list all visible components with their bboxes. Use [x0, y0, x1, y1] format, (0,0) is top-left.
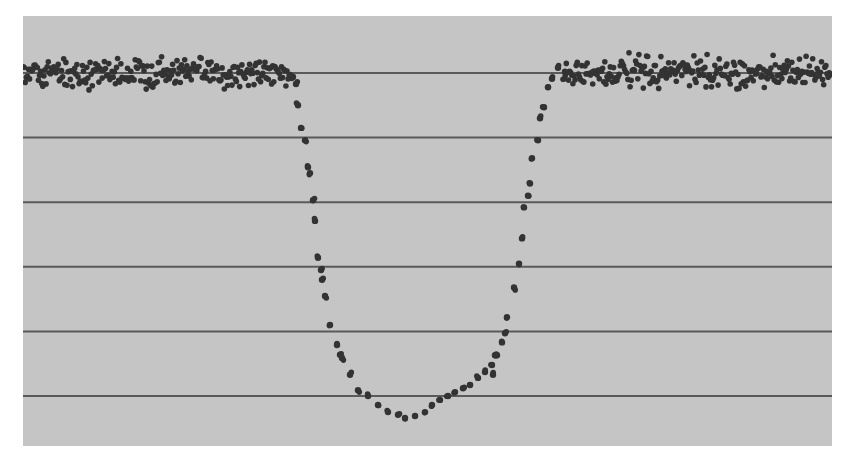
data-point	[169, 72, 175, 78]
data-point	[504, 315, 510, 321]
data-point	[702, 65, 708, 71]
data-point	[581, 79, 587, 85]
data-point	[171, 68, 177, 74]
data-point	[147, 77, 153, 83]
data-point	[779, 76, 785, 82]
data-point	[229, 82, 235, 88]
data-point	[141, 68, 147, 74]
data-point	[691, 53, 697, 59]
data-point	[70, 84, 76, 90]
data-point	[436, 397, 442, 403]
data-point	[115, 56, 121, 62]
data-point	[154, 79, 160, 85]
data-point	[239, 62, 245, 68]
data-point	[84, 65, 90, 71]
data-point	[357, 389, 363, 395]
data-point	[556, 63, 562, 69]
data-point	[376, 403, 382, 409]
data-point	[397, 411, 403, 417]
data-point	[303, 139, 309, 145]
data-point	[90, 83, 96, 89]
data-point	[715, 82, 721, 88]
data-point	[538, 113, 544, 119]
data-point	[384, 408, 390, 414]
data-point	[674, 78, 680, 84]
data-point	[23, 80, 28, 86]
data-point	[527, 180, 533, 186]
data-point	[247, 62, 253, 68]
data-point	[305, 163, 311, 169]
data-point	[641, 85, 647, 91]
data-point	[520, 234, 526, 240]
data-point	[422, 410, 428, 416]
data-point	[43, 81, 49, 87]
data-point	[704, 52, 710, 58]
data-point	[792, 79, 798, 85]
data-point	[41, 73, 47, 79]
data-point	[642, 64, 648, 70]
data-point	[564, 61, 570, 67]
data-point	[312, 196, 318, 202]
data-point	[365, 391, 371, 397]
data-point	[529, 156, 535, 162]
gridlines	[23, 73, 832, 396]
data-point	[789, 60, 795, 66]
data-point	[157, 60, 163, 66]
data-point	[283, 83, 289, 89]
data-point	[632, 68, 638, 74]
data-point	[203, 68, 209, 74]
data-point	[742, 63, 748, 69]
data-point	[143, 86, 149, 92]
data-point	[521, 204, 527, 210]
data-point	[106, 61, 112, 67]
data-point	[724, 61, 730, 67]
data-point	[624, 71, 630, 77]
data-point	[299, 126, 305, 132]
data-point	[429, 403, 435, 409]
data-point	[575, 59, 581, 65]
data-point	[149, 63, 155, 69]
data-point	[818, 69, 824, 75]
data-point	[68, 77, 74, 83]
data-point	[802, 80, 808, 86]
data-point	[237, 84, 243, 90]
data-point	[87, 60, 93, 66]
data-point	[821, 82, 827, 88]
data-point	[110, 74, 116, 80]
data-point	[63, 60, 69, 66]
data-point	[635, 76, 641, 82]
data-point	[590, 81, 596, 87]
data-point	[262, 59, 268, 65]
data-point	[546, 84, 552, 90]
data-point	[698, 58, 704, 64]
data-point	[645, 54, 651, 60]
data-point	[474, 373, 480, 379]
data-point	[810, 56, 816, 62]
data-point	[762, 85, 768, 91]
data-point	[718, 66, 724, 72]
data-point	[60, 74, 66, 80]
data-point	[257, 59, 263, 65]
data-points	[23, 50, 832, 422]
data-point	[64, 82, 70, 88]
data-point	[242, 76, 248, 82]
data-point	[312, 216, 318, 222]
data-point	[727, 81, 733, 87]
data-point	[666, 60, 672, 66]
data-point	[211, 76, 217, 82]
data-point	[319, 266, 325, 272]
data-point	[174, 58, 180, 64]
data-point	[103, 66, 109, 72]
data-point	[627, 84, 633, 90]
data-point	[74, 62, 80, 68]
data-point	[208, 59, 214, 65]
data-point	[260, 71, 266, 77]
data-point	[709, 84, 715, 90]
data-point	[266, 76, 272, 82]
data-point	[334, 341, 340, 347]
data-point	[671, 60, 677, 66]
data-point	[59, 68, 65, 74]
data-point	[468, 382, 474, 388]
data-point	[687, 83, 693, 89]
data-point	[803, 54, 809, 60]
